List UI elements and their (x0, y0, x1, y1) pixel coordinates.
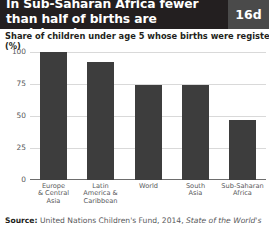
x-axis-label-3: SouthAsia (172, 183, 219, 198)
x-label-line: Africa (219, 190, 266, 197)
source-text: United Nations Children's Fund, 2014, (40, 216, 184, 225)
y-tick-label-75: 75 (0, 80, 26, 88)
figure-number-badge: 16d (228, 0, 269, 29)
bar-1[interactable] (87, 62, 114, 180)
x-label-line: Asia (172, 190, 219, 197)
subtitle-block: Share of children under age 5 whose birt… (5, 31, 267, 51)
source-publication: State of the World's (186, 216, 261, 225)
x-axis-label-1: LatinAmerica &Caribbean (77, 183, 124, 205)
bar-3[interactable] (182, 85, 209, 180)
chart-bars (30, 52, 266, 180)
chart-header: In Sub-Saharan Africa fewer than half of… (0, 0, 269, 29)
chart-subtitle: Share of children under age 5 whose birt… (5, 31, 267, 41)
source-note: Source: United Nations Children's Fund, … (5, 216, 269, 225)
x-axis-labels: Europe& CentralAsiaLatinAmerica &Caribbe… (30, 183, 266, 213)
x-label-line: World (125, 183, 172, 190)
bar-4[interactable] (229, 120, 256, 180)
x-axis-label-0: Europe& CentralAsia (30, 183, 77, 205)
y-tick-label-100: 100 (0, 48, 26, 56)
x-label-line: Asia (30, 198, 77, 205)
title-line-2: than half of births are registered (6, 12, 228, 30)
source-label: Source: (5, 216, 38, 225)
x-axis-label-2: World (125, 183, 172, 190)
y-tick-label-0: 0 (0, 176, 26, 184)
page-title: In Sub-Saharan Africa fewer than half of… (6, 0, 228, 29)
chart-axis-unit: (%) (5, 41, 267, 51)
bar-0[interactable] (40, 52, 67, 180)
bar-chart: 0255075100 Europe& CentralAsiaLatinAmeri… (0, 52, 269, 187)
x-label-line: Caribbean (77, 198, 124, 205)
y-tick-label-50: 50 (0, 112, 26, 120)
y-tick-label-25: 25 (0, 144, 26, 152)
x-axis-label-4: Sub-SaharanAfrica (219, 183, 266, 198)
bar-2[interactable] (135, 85, 162, 180)
title-line-1: In Sub-Saharan Africa fewer (6, 0, 228, 12)
